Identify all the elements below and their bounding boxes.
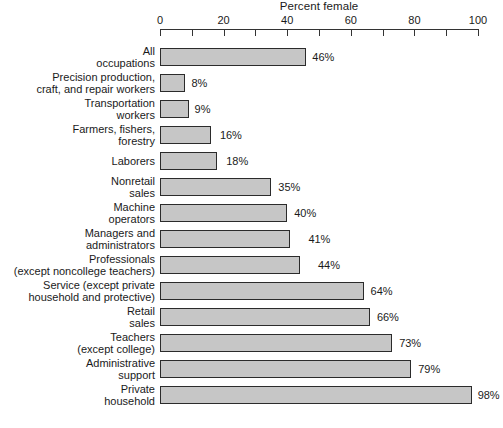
bar-row: Teachers(except college)73% [0,330,503,356]
bar-track: 18% [160,152,478,170]
bar-row: Transportationworkers9% [0,96,503,122]
bar-category-label: Privatehousehold [0,383,155,407]
bar [160,386,472,404]
x-axis-tick-mark [287,29,288,36]
x-axis-tick-mark [192,29,193,36]
bar-category-label: Transportationworkers [0,97,155,121]
bar-category-label-line: Retail [0,305,155,317]
bar-category-label-line: Laborers [0,155,155,167]
bar-row: Precision production,craft, and repair w… [0,70,503,96]
bar-track: 41% [160,230,478,248]
bar-row: Farmers, fishers,forestry16% [0,122,503,148]
bar-value-label: 66% [377,311,399,323]
bar [160,282,364,300]
bar-category-label-line: occupations [0,57,155,69]
bar [160,74,185,92]
bar-chart: Percent female 020406080100 Alloccupatio… [0,0,503,428]
bar-category-label-line: sales [0,317,155,329]
bar-category-label-line: sales [0,187,155,199]
bar [160,230,290,248]
bar-row: Privatehousehold98% [0,382,503,408]
bar-category-label: Administrativesupport [0,357,155,381]
bar [160,204,287,222]
bar-track: 8% [160,74,478,92]
bar [160,178,271,196]
bar-row: Alloccupations46% [0,44,503,70]
bar-category-label-line: workers [0,109,155,121]
bar-value-label: 46% [312,51,334,63]
bar-track: 35% [160,178,478,196]
bar-category-label-line: Administrative [0,357,155,369]
bar-category-label-line: Farmers, fishers, [0,123,155,135]
bar-row: Managers andadministrators41% [0,226,503,252]
bar-track: 46% [160,48,478,66]
bar-category-label-line: (except college) [0,343,155,355]
x-axis-tick-mark [255,29,256,36]
bar-value-label: 40% [294,207,316,219]
bar-track: 64% [160,282,478,300]
x-axis-tick-label: 20 [217,14,229,26]
x-axis-tick-mark [446,29,447,36]
bar-value-label: 79% [418,363,440,375]
bar-row: Service (except privatehousehold and pro… [0,278,503,304]
bar-category-label-line: Teachers [0,331,155,343]
bar-category-label-line: forestry [0,135,155,147]
x-axis-tick-label: 0 [157,14,163,26]
x-axis-tick-mark [414,29,415,36]
bar-value-label: 35% [278,181,300,193]
bar-track: 40% [160,204,478,222]
bar-row: Professionals(except noncollege teachers… [0,252,503,278]
bar-category-label-line: Private [0,383,155,395]
x-axis-tick-mark [319,29,320,36]
bar [160,360,411,378]
bar-value-label: 18% [226,155,248,167]
bar-value-label: 98% [478,389,500,401]
bar-value-label: 44% [318,259,340,271]
bar-category-label: Managers andadministrators [0,227,155,251]
bar-category-label-line: craft, and repair workers [0,83,155,95]
bar-value-label: 64% [371,285,393,297]
x-axis-tick-mark [160,29,161,36]
bar [160,152,217,170]
bar-category-label: Teachers(except college) [0,331,155,355]
bar-category-label: Farmers, fishers,forestry [0,123,155,147]
chart-axis-title: Percent female [160,0,478,12]
bar-row: Machineoperators40% [0,200,503,226]
bar-track: 9% [160,100,478,118]
bar-category-label: Precision production,craft, and repair w… [0,71,155,95]
bar-category-label-line: Machine [0,201,155,213]
x-axis-tick-mark [478,29,479,36]
bar-category-label: Retailsales [0,305,155,329]
bar-track: 79% [160,360,478,378]
bar-category-label-line: administrators [0,239,155,251]
bar-category-label-line: Transportation [0,97,155,109]
x-axis-tick-mark [224,29,225,36]
bar [160,256,300,274]
bar [160,100,189,118]
bar-category-label: Alloccupations [0,45,155,69]
x-axis-tick-label: 100 [469,14,487,26]
bar-category-label: Service (except privatehousehold and pro… [0,279,155,303]
bar-category-label-line: (except noncollege teachers) [0,265,155,277]
bar-category-label-line: Nonretail [0,175,155,187]
bar [160,308,370,326]
bar-rows: Alloccupations46%Precision production,cr… [0,44,503,408]
bar [160,48,306,66]
bar-category-label-line: Service (except private [0,279,155,291]
bar-category-label: Machineoperators [0,201,155,225]
bar-category-label-line: household and protective) [0,291,155,303]
bar-category-label: Professionals(except noncollege teachers… [0,253,155,277]
bar-value-label: 9% [195,103,211,115]
x-axis-tick-mark [383,29,384,36]
x-axis-tick-label: 80 [408,14,420,26]
bar-category-label-line: Managers and [0,227,155,239]
x-axis-tick-mark [351,29,352,36]
bar-value-label: 41% [308,233,330,245]
bar-track: 73% [160,334,478,352]
bar-track: 16% [160,126,478,144]
bar-value-label: 73% [399,337,421,349]
bar-category-label-line: household [0,395,155,407]
x-axis-tick-label: 40 [281,14,293,26]
bar-row: Laborers18% [0,148,503,174]
bar-category-label: Nonretailsales [0,175,155,199]
